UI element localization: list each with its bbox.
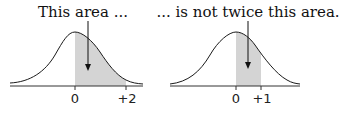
right-tick-label-0: 0 bbox=[232, 91, 240, 106]
left-panel: This area ... 0 +2 bbox=[10, 3, 143, 106]
left-tick-label-2: +2 bbox=[117, 91, 136, 106]
right-caption: ... is not twice this area. bbox=[156, 3, 339, 21]
right-bell-curve bbox=[170, 32, 300, 84]
left-caption: This area ... bbox=[38, 3, 128, 21]
diagram: This area ... 0 +2 ... is not twice this… bbox=[0, 0, 340, 113]
right-panel: ... is not twice this area. 0 +1 bbox=[156, 3, 339, 106]
left-shaded-area bbox=[75, 32, 126, 86]
left-tick-label-0: 0 bbox=[71, 91, 79, 106]
right-tick-label-1: +1 bbox=[252, 91, 271, 106]
